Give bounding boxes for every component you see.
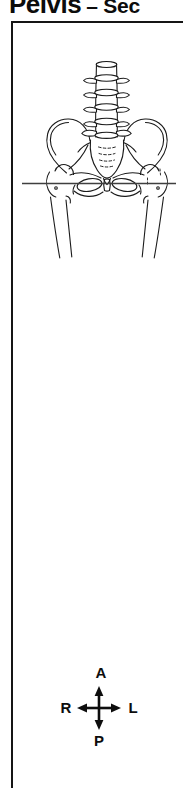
- compass-label-anterior: A: [91, 665, 111, 680]
- compass-label-left: L: [123, 700, 143, 715]
- pelvis-anterior-view-illustration: [47, 62, 168, 259]
- compass-arrows-icon: [74, 683, 124, 733]
- compass-label-right: R: [56, 700, 76, 715]
- compass-label-posterior: P: [89, 733, 109, 748]
